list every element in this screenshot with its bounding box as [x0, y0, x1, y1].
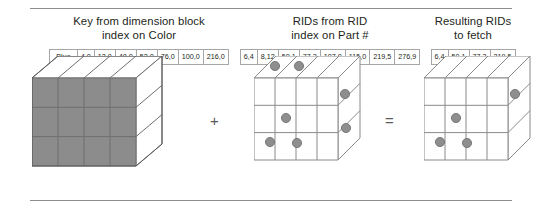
- cube-svg-3: [424, 56, 542, 191]
- column-3-heading-line2: to fetch: [408, 28, 538, 42]
- rid-dot: [294, 61, 303, 70]
- rid-dot: [435, 137, 444, 146]
- column-3-heading: Resulting RIDs to fetch: [408, 14, 538, 42]
- rid-dot: [340, 89, 349, 98]
- rid-dot: [341, 123, 350, 132]
- table-cell: 216,0: [204, 50, 228, 64]
- top-divider: [30, 8, 512, 9]
- column-1-heading-line2: index on Color: [14, 28, 264, 42]
- rid-dot: [510, 89, 519, 98]
- equals-operator: =: [385, 112, 394, 129]
- column-2-heading-line2: index on Part #: [240, 28, 420, 42]
- rid-dot: [462, 138, 471, 147]
- cube-svg-1: [32, 56, 192, 191]
- column-1-heading: Key from dimension block index on Color: [14, 14, 264, 42]
- rid-dot: [292, 138, 301, 147]
- cube-diagram-shaded: [32, 56, 192, 195]
- rid-dot: [270, 61, 279, 70]
- column-1-heading-line1: Key from dimension block: [14, 14, 264, 28]
- bottom-divider: [30, 200, 512, 201]
- cube-diagram-rids: [254, 56, 384, 195]
- rid-dot: [281, 113, 290, 122]
- cube-diagram-result: [424, 56, 542, 195]
- rid-dot: [451, 113, 460, 122]
- cube-svg-2: [254, 56, 384, 191]
- column-2-heading-line1: RIDs from RID: [240, 14, 420, 28]
- rid-dot: [265, 137, 274, 146]
- column-2-heading: RIDs from RID index on Part #: [240, 14, 420, 42]
- column-3-heading-line1: Resulting RIDs: [408, 14, 538, 28]
- plus-operator: +: [210, 112, 219, 129]
